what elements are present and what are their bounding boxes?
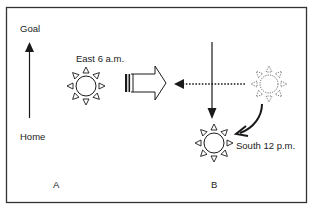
curved-arrow xyxy=(236,104,262,136)
east-sun-icon xyxy=(67,67,105,105)
east-label: East 6 a.m. xyxy=(76,54,124,64)
south-label: South 12 p.m. xyxy=(236,141,295,151)
home-to-goal-arrow xyxy=(25,42,34,118)
diagram-canvas: Goal Home East 6 a.m. South 12 p.m. A B xyxy=(0,0,313,209)
sun-dashed-icon xyxy=(251,66,287,102)
panel-b-label: B xyxy=(211,180,217,190)
goal-label: Goal xyxy=(20,24,40,34)
vertical-down-arrow xyxy=(208,42,217,119)
diagram-graphics xyxy=(0,0,313,209)
south-sun-icon xyxy=(195,124,233,162)
home-label: Home xyxy=(20,132,45,142)
panel-a-label: A xyxy=(53,180,59,190)
hollow-right-arrow-icon xyxy=(125,66,166,100)
dotted-left-arrow xyxy=(174,79,245,89)
